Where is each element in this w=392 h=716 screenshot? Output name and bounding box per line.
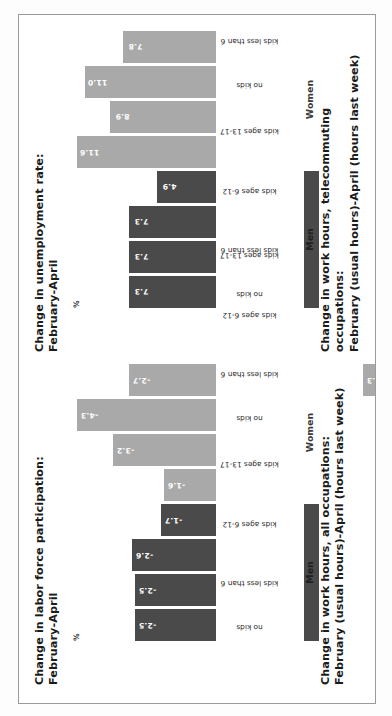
bar-slot: -1.6 [72, 469, 216, 501]
group-labels-row: MenWomen [304, 31, 319, 354]
bar-slot: -2.7 [358, 504, 375, 536]
x-tick-text: kids ages 6-12 [223, 519, 277, 528]
bar-value-label: 8.9 [115, 113, 129, 122]
bars: -2.5-2.5-2.6-1.7-1.6-3.2-4.3-2.7 [72, 364, 216, 641]
charts-row-bottom: Change in work hours, all occupations: F… [319, 31, 375, 687]
bar: 11.0 [85, 66, 216, 98]
bar-slot: -3.2 [72, 434, 216, 466]
bar-slot: -2.8 [358, 539, 375, 571]
bar: -1.7 [161, 504, 216, 536]
bar-slot: -3.5 [372, 66, 375, 98]
bar-slot: -2.4 [372, 171, 375, 203]
bar: -2.5 [135, 609, 216, 641]
group-label-women: Women [304, 364, 319, 501]
bar: -4.3 [77, 399, 216, 431]
bar: -3.2 [113, 434, 216, 466]
x-tick: no kids [216, 406, 302, 432]
x-tick: kids ages 13-17 [216, 102, 302, 161]
bar-value-label: 11.0 [87, 78, 107, 87]
bar-value-label: -1.7 [165, 516, 182, 525]
bar-slot: -4.3 [358, 364, 375, 396]
x-tick-text: no kids [236, 623, 262, 632]
x-tick-text: kids less than 6 [221, 369, 279, 378]
group-label-text: Men [304, 561, 319, 583]
bar-slot: -2.6 [372, 136, 375, 168]
bars: -1.9-2.1-2.8-2.7-1.2-1.9-3.4-4.3 [358, 364, 375, 641]
bar-value-label: 4.9 [163, 183, 177, 192]
bar-slot: -2.5 [72, 609, 216, 641]
bar: -2.7 [129, 364, 216, 396]
x-tick-text: kids less than 6 [221, 578, 279, 587]
chart-unemployment: %7.37.37.34.911.68.911.07.8no kidskids l… [72, 31, 319, 354]
bar-slot: -2.5 [72, 574, 216, 606]
group-label-text: Women [304, 413, 319, 452]
bar-group-container: 7.37.37.34.911.68.911.07.8 [72, 31, 216, 354]
panel-title: Change in work hours, all occupations: F… [319, 364, 348, 685]
bars: -1.7-2.6-2.2-2.4-2.6-3.7-3.5-1.7 [372, 31, 375, 308]
x-tick: kids ages 13-17 [216, 435, 302, 494]
group-label-text: Women [304, 80, 319, 119]
figure-page: Change in labor force participation: Feb… [0, 0, 392, 716]
chart-workhours-all: -1.9-2.1-2.8-2.7-1.2-1.9-3.4-4.3no kidsk… [358, 364, 375, 687]
bar: 7.3 [129, 241, 216, 273]
bar-slot: -1.7 [372, 276, 375, 308]
bar: -2.6 [132, 539, 216, 571]
bar-slot: -2.1 [358, 574, 375, 606]
bar: -2.5 [135, 574, 216, 606]
bar-slot: -2.2 [372, 206, 375, 238]
charts-row-top: Change in labor force participation: Feb… [33, 31, 319, 687]
bars: 7.37.37.34.911.68.911.07.8 [72, 31, 216, 308]
bar-slot: 8.9 [72, 101, 216, 133]
x-tick-text: kids ages 6-12 [223, 186, 277, 195]
bar-value-label: -2.7 [133, 376, 150, 385]
panel-workhours-telecommuting: Change in work hours, telecommuting occu… [319, 31, 375, 354]
chart-labor-force: %-2.5-2.5-2.6-1.7-1.6-3.2-4.3-2.7no kids… [72, 364, 319, 687]
bar-slot: 7.3 [72, 241, 216, 273]
group-label-women: Women [304, 31, 319, 168]
group-label-text: Men [304, 228, 319, 250]
bar-slot: 11.0 [72, 66, 216, 98]
bar-value-label: -3.2 [117, 446, 134, 455]
x-tick: kids ages 6-12 [216, 497, 302, 551]
bar: 8.9 [110, 101, 216, 133]
bar: 4.9 [157, 171, 216, 203]
panel-labor-force: Change in labor force participation: Feb… [33, 364, 319, 687]
bar-value-label: -2.5 [139, 586, 156, 595]
x-tick: no kids [216, 282, 302, 308]
bar-value-label: -4.3 [367, 376, 375, 385]
bar-slot: -3.4 [358, 399, 375, 431]
bar-value-label: -2.6 [136, 551, 153, 560]
x-tick-text: kids ages 13-17 [220, 460, 279, 469]
x-tick: no kids [216, 73, 302, 99]
bar-slot: -3.7 [372, 101, 375, 133]
bar-slot: 7.8 [72, 31, 216, 63]
bar-slot: 4.9 [72, 171, 216, 203]
figure-sheet: Change in labor force participation: Feb… [18, 14, 376, 704]
chart-workhours-telecommuting: -1.7-2.6-2.2-2.4-2.6-3.7-3.5-1.7no kidsk… [372, 31, 375, 354]
x-tick-text: no kids [236, 81, 262, 90]
group-label-men: Men [304, 504, 319, 641]
bar-slot: -1.9 [358, 609, 375, 641]
panel-title: Change in work hours, telecommuting occu… [319, 31, 362, 352]
group-labels-row: MenWomen [304, 364, 319, 687]
panel-title: Change in unemployment rate: February-Ap… [33, 31, 62, 352]
bar-slot: -2.6 [372, 241, 375, 273]
x-tick: kids less than 6 [216, 15, 302, 70]
rotation-wrapper: Change in labor force participation: Feb… [19, 15, 375, 703]
bar-value-label: 7.3 [134, 253, 148, 262]
bar-value-label: -2.5 [139, 621, 156, 630]
bar-slot: -1.7 [372, 31, 375, 63]
x-tick-text: kids ages 13-17 [220, 127, 279, 136]
bar: 7.3 [129, 206, 216, 238]
x-tick-text: no kids [236, 290, 262, 299]
bar: 7.3 [129, 276, 216, 308]
x-tick-text: kids less than 6 [221, 245, 279, 254]
bar-slot: -2.6 [72, 539, 216, 571]
bar-slot: 11.6 [72, 136, 216, 168]
bar-value-label: 7.3 [134, 218, 148, 227]
x-tick-labels: no kidskids less than 6kids ages 6-12kid… [216, 31, 302, 354]
bar-group-container: -1.7-2.6-2.2-2.4-2.6-3.7-3.5-1.7 [372, 31, 375, 354]
bar-slot: -1.9 [358, 434, 375, 466]
bar-slot: -1.2 [358, 469, 375, 501]
group-label-men: Men [304, 171, 319, 308]
